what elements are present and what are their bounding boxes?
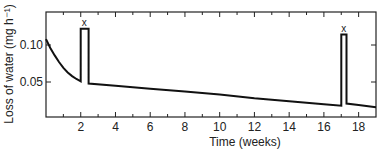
- x-tick-label: 16: [317, 120, 331, 134]
- x-tick-label: 18: [352, 120, 366, 134]
- axes-frame: [46, 12, 376, 117]
- peak-marker: x: [341, 23, 346, 34]
- x-axis-label: Time (weeks): [209, 135, 281, 149]
- x-tick-label: 10: [213, 120, 227, 134]
- y-tick-label: 0.10: [20, 38, 44, 52]
- y-tick-labels: 0.050.10: [20, 38, 44, 89]
- x-tick-label: 6: [147, 120, 154, 134]
- axis-ticks: [46, 12, 376, 117]
- x-tick-label: 8: [182, 120, 189, 134]
- x-tick-label: 12: [248, 120, 262, 134]
- x-tick-label: 4: [112, 120, 119, 134]
- x-tick-label: 2: [77, 120, 84, 134]
- peak-marker: x: [82, 17, 87, 28]
- y-tick-label: 0.05: [20, 75, 44, 89]
- annotations: xx: [82, 17, 347, 34]
- water-loss-line: [46, 29, 376, 108]
- y-axis-label: Loss of water (mg h⁻¹): [2, 4, 16, 123]
- x-tick-labels: 24681012141618: [77, 120, 365, 134]
- chart: 24681012141618 0.050.10 xx Time (weeks) …: [0, 0, 382, 155]
- x-tick-label: 14: [282, 120, 296, 134]
